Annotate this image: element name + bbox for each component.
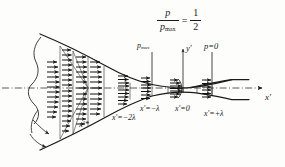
arrow-field-throat-a (118, 76, 129, 104)
p-max-label: pmax (137, 42, 150, 51)
x-minus-2lambda-label: x′=−2λ (112, 114, 136, 122)
y-axis-label: y′ (186, 44, 192, 53)
pressure-ratio-equation: p pmax = 1 2 (157, 8, 201, 33)
arrow-field-minus-lambda (141, 78, 151, 99)
arrow-field-left-a (47, 62, 60, 117)
rhs-numerator: 1 (190, 8, 201, 20)
inflow-wave (28, 37, 49, 147)
x-zero-label: x′=0 (175, 105, 190, 113)
figure-canvas: p pmax = 1 2 pmax y′ p=0 x′ x′* x′=−2λ x… (0, 0, 285, 167)
p-zero-label: p=0 (204, 42, 218, 51)
x-minus-lambda-label: x′=−λ (140, 105, 160, 113)
equation-equals: = (182, 15, 188, 26)
diagram-svg (0, 0, 285, 167)
ratio-fraction: p pmax (157, 8, 179, 33)
x-plus-lambda-label: x′=+λ (204, 110, 224, 118)
x-star-label: x′* (79, 120, 89, 129)
half-fraction: 1 2 (190, 8, 201, 33)
arrow-field-left-c (76, 57, 87, 124)
equation-numerator: p (157, 8, 179, 20)
rhs-denominator: 2 (190, 20, 201, 33)
arrow-field-zero (170, 79, 182, 98)
x-axis-label: x′ (265, 93, 271, 102)
arrow-field-left-d (90, 62, 102, 114)
equation-denominator: pmax (157, 20, 179, 33)
